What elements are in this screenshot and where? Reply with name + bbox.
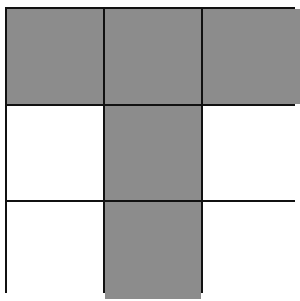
grid-cell-r3-c2-filled	[105, 202, 201, 299]
grid-cell-r2-c2-filled	[105, 106, 201, 200]
grid-3x3	[5, 7, 295, 293]
grid-cell-r1-c1-filled	[7, 9, 103, 104]
grid-cell-r3-c1-empty	[7, 202, 103, 299]
grid-cell-r2-c3-empty	[203, 106, 300, 200]
grid-cell-r3-c3-empty	[203, 202, 300, 299]
grid-cell-r1-c3-filled	[203, 9, 300, 104]
grid-cell-r1-c2-filled	[105, 9, 201, 104]
grid-cell-r2-c1-empty	[7, 106, 103, 200]
